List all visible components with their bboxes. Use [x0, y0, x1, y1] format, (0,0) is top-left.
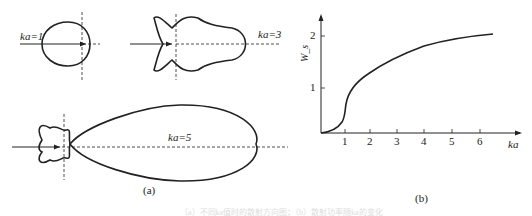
- caption-a: (a): [143, 184, 155, 196]
- ytick-1: 1: [310, 81, 316, 93]
- pattern-ka1: [20, 12, 100, 80]
- xtick-3: 3: [394, 135, 400, 147]
- label-ka3: ka=3: [258, 28, 281, 40]
- ws-curve: [321, 34, 493, 133]
- caption-b: (b): [415, 192, 428, 204]
- xtick-2: 2: [367, 135, 373, 147]
- xtick-4: 4: [421, 135, 427, 147]
- x-axis-label: ka: [508, 138, 518, 150]
- chart-axes: [319, 14, 523, 136]
- xtick-1: 1: [342, 135, 348, 147]
- pattern-ka5: [12, 105, 288, 181]
- label-ka1: ka=1: [20, 30, 43, 42]
- xtick-6: 6: [477, 135, 483, 147]
- footer-caption: （a）不同ka值时的散射方向图；（b）散射功率随ka的变化: [180, 206, 383, 216]
- xtick-5: 5: [449, 135, 455, 147]
- y-axis-label: W_s: [299, 45, 310, 62]
- label-ka5: ka=5: [168, 131, 191, 143]
- pattern-ka3: [130, 14, 280, 80]
- figure: ka=1 ka=3 ka=5 (a) W_s 1 2 1 2 3 4 5 6 k…: [0, 0, 532, 216]
- ytick-2: 2: [310, 29, 316, 41]
